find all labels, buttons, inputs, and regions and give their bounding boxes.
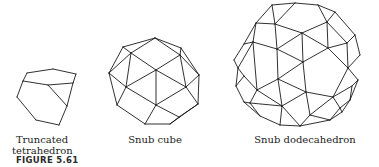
snub-dodecahedron-edge: [318, 5, 327, 22]
snub-dodecahedron-edge: [303, 62, 306, 92]
snub-dodecahedron-caption: Snub dodecahedron: [250, 134, 360, 145]
snub-dodecahedron-edge: [280, 125, 300, 126]
snub-dodecahedron-edge: [238, 68, 244, 76]
snub-dodecahedron-edge: [348, 55, 360, 68]
snub-dodecahedron-edge: [310, 97, 333, 115]
snub-dodecahedron-edge: [234, 60, 238, 68]
figure-label: FIGURE 5.61: [16, 155, 78, 165]
snub-dodecahedron-edge: [250, 90, 257, 103]
snub-dodecahedron-edge: [302, 33, 303, 62]
snub-dodecahedron-edge: [253, 42, 257, 90]
snub-dodecahedron-edge: [348, 68, 358, 80]
snub-dodecahedron-edge: [234, 44, 244, 60]
snub-dodecahedron-edge: [278, 79, 282, 106]
snub-cube-caption: Snub cube: [120, 134, 190, 145]
snub-dodecahedron-edge: [272, 5, 275, 24]
snub-dodecahedron-edge: [278, 79, 306, 92]
snub-dodecahedron-edge: [277, 49, 303, 62]
snub-dodecahedron-edge: [244, 76, 257, 90]
snub-dodecahedron-edge: [277, 49, 278, 79]
snub-dodecahedron-edge: [340, 108, 342, 112]
snub-dodecahedron-edge: [238, 42, 253, 68]
snub-dodecahedron-edge: [347, 43, 348, 68]
snub-dodecahedron-edge: [295, 3, 318, 5]
snub-dodecahedron-edge: [328, 43, 347, 48]
snub-dodecahedron-edge: [327, 22, 347, 43]
snub-dodecahedron-edge: [236, 86, 244, 102]
snub-dodecahedron-edge: [355, 35, 360, 55]
snub-dodecahedron-edge: [302, 33, 328, 48]
snub-dodecahedron-edge: [278, 62, 303, 79]
snub-dodecahedron-edge: [282, 106, 300, 126]
snub-dodecahedron-edge: [318, 5, 335, 12]
snub-dodecahedron-edge: [302, 22, 327, 33]
snub-dodecahedron-edge: [275, 24, 302, 33]
snub-dodecahedron-edge: [280, 106, 282, 125]
truncated-tetrahedron-caption: Truncated tetrahedron: [12, 134, 72, 156]
snub-dodecahedron-edge: [250, 103, 260, 116]
snub-dodecahedron-edge: [275, 3, 295, 24]
caption-line: Snub dodecahedron: [250, 134, 360, 145]
snub-dodecahedron-edge: [328, 48, 348, 68]
figure-5-61: Truncated tetrahedron Snub cube Snub dod…: [0, 0, 379, 167]
snub-dodecahedron-edge: [253, 42, 277, 49]
caption-line: Truncated: [12, 134, 72, 145]
snub-dodecahedron-edge: [327, 12, 335, 22]
snub-dodecahedron-edge: [256, 5, 272, 23]
snub-dodecahedron-edge: [303, 48, 328, 62]
snub-dodecahedron-edge: [257, 79, 278, 90]
snub-dodecahedron-edge: [306, 92, 333, 97]
snub-dodecahedron-edge: [310, 115, 330, 120]
snub-dodecahedron-edge: [333, 97, 340, 108]
snub-dodecahedron-edge: [347, 35, 355, 43]
snub-dodecahedron-edge: [260, 116, 280, 125]
snub-dodecahedron-edge: [327, 22, 328, 48]
snub-dodecahedron-edge: [335, 12, 355, 35]
caption-line: Snub cube: [120, 134, 190, 145]
snub-dodecahedron-edge: [272, 3, 295, 5]
snub-dodecahedron-edge: [275, 24, 277, 49]
snub-dodecahedron-edge: [282, 92, 306, 106]
snub-dodecahedron-edge: [256, 23, 275, 24]
snub-dodecahedron-edge: [277, 33, 302, 49]
snub-dodecahedron-edge: [306, 92, 310, 115]
